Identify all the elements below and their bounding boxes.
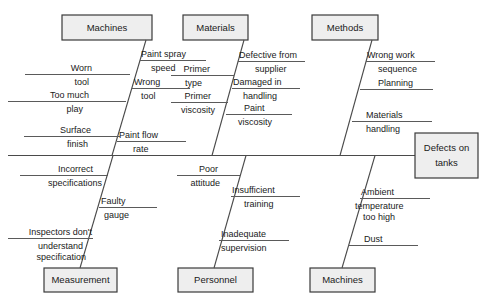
cause-materials-top-l1: Primer viscosity: [171, 91, 228, 115]
category-label-machines-bottom: Machines: [322, 274, 363, 285]
cause-text-line2: understand: [38, 241, 83, 251]
cause-materials-top-r2: Paint viscosity: [226, 103, 292, 127]
cause-text-line1: Inadequate: [221, 229, 266, 239]
cause-text-line1: Primer: [184, 64, 211, 74]
effect-box[interactable]: Defects on tanks: [415, 133, 478, 178]
category-branch-machines-top: Machines Paint spray speed Wrong tool Pa…: [8, 15, 206, 156]
cause-text-line2: viscosity: [181, 105, 216, 115]
cause-measurement-bottom-l1: Inspectors don't understand specificatio…: [8, 227, 93, 262]
category-label-machines-top: Machines: [87, 22, 128, 33]
cause-text-line1: Insufficient: [232, 185, 275, 195]
cause-text-line1: Ambient: [361, 187, 395, 197]
category-label-measurement-bottom: Measurement: [51, 274, 109, 285]
cause-text-line2: handling: [243, 91, 277, 101]
cause-text-line2: sequence: [378, 64, 417, 74]
cause-text-line1: Damaged in: [233, 77, 282, 87]
cause-text-line2: gauge: [104, 210, 129, 220]
cause-text-line2: specifications: [48, 178, 103, 188]
cause-text-line3: specification: [36, 252, 86, 262]
cause-text-line1: Worn: [71, 63, 92, 73]
cause-text-line1: Surface: [60, 125, 91, 135]
cause-text-line2: tool: [141, 91, 156, 101]
effect-box-label-line2: tanks: [435, 157, 458, 168]
cause-text-line1: Paint flow: [119, 130, 159, 140]
cause-materials-top-r1: Damaged in handling: [232, 77, 300, 101]
cause-personnel-bottom-r1: Inadequate supervision: [219, 229, 289, 253]
cause-machines-top-l0: Worn tool: [25, 63, 130, 87]
cause-text-line1: Materials: [366, 110, 403, 120]
fishbone-canvas: Defects on tanks Machines Paint spray sp…: [0, 0, 489, 307]
cause-methods-top-r1: Planning: [360, 78, 433, 90]
cause-text-line3: too high: [363, 212, 395, 222]
cause-text-line1: Paint: [244, 103, 265, 113]
category-branch-materials-top: Materials Defective from supplier Damage…: [171, 15, 305, 156]
cause-text-line1: Defective from: [239, 50, 297, 60]
cause-text-line1: Primer: [185, 91, 212, 101]
category-branch-measurement-bottom: Measurement Faulty gauge Incorrect speci…: [8, 156, 157, 293]
cause-text-line2: rate: [133, 144, 149, 154]
cause-machines-top-r1: Wrong tool: [132, 77, 190, 101]
cause-machines-top-l1: Too much play: [8, 90, 126, 114]
cause-text-line2: tool: [74, 77, 89, 87]
cause-machines-bottom-r0: Ambient temperature too high: [355, 187, 430, 222]
cause-text-line1: Poor: [199, 164, 218, 174]
cause-text-line1: Incorrect: [58, 164, 94, 174]
cause-text-line1: Dust: [364, 234, 383, 244]
fishbone-diagram: Defects on tanks Machines Paint spray sp…: [0, 0, 489, 307]
cause-text-line2: finish: [67, 139, 88, 149]
cause-text-line2: supplier: [255, 64, 287, 74]
cause-text-line2: supervision: [221, 243, 267, 253]
cause-methods-top-r0: Wrong work sequence: [366, 50, 435, 74]
cause-machines-top-l2: Surface finish: [24, 125, 120, 149]
cause-materials-top-r0: Defective from supplier: [238, 50, 305, 74]
category-branch-machines-bottom: Machines Ambient temperature too high Du…: [310, 156, 430, 293]
cause-measurement-bottom-l0: Incorrect specifications: [20, 164, 108, 188]
cause-text-line2: play: [66, 104, 83, 114]
cause-materials-top-l0: Primer type: [171, 64, 234, 88]
category-label-materials-top: Materials: [196, 22, 235, 33]
cause-text-line1: Paint spray: [141, 49, 187, 59]
cause-text-line1: Faulty: [101, 196, 126, 206]
cause-text-line1: Wrong: [134, 77, 160, 87]
effect-box-label-line1: Defects on: [424, 142, 469, 153]
cause-machines-top-r2: Paint flow rate: [117, 130, 186, 154]
cause-methods-top-r2: Materials handling: [352, 110, 432, 134]
cause-text-line2: handling: [366, 124, 400, 134]
effect-box-rect: [415, 133, 478, 178]
cause-measurement-bottom-r0: Faulty gauge: [99, 196, 157, 220]
category-branch-personnel-bottom: Personnel Insufficient training Inadequa…: [177, 156, 300, 293]
cause-text-line2: attitude: [190, 178, 220, 188]
cause-text-line2: speed: [151, 63, 176, 73]
category-label-methods-top: Methods: [327, 22, 364, 33]
category-label-personnel-bottom: Personnel: [194, 274, 237, 285]
cause-text-line2: training: [244, 199, 274, 209]
cause-text-line1: Wrong work: [367, 50, 415, 60]
cause-text-line2: temperature: [355, 201, 404, 211]
cause-text-line1: Inspectors don't: [29, 227, 93, 237]
cause-personnel-bottom-r0: Insufficient training: [231, 185, 300, 209]
cause-text-line2: viscosity: [238, 117, 273, 127]
cause-text-line1: Too much: [50, 90, 89, 100]
cause-machines-bottom-r1: Dust: [348, 234, 418, 246]
cause-text-line2: type: [185, 78, 202, 88]
cause-text-line1: Planning: [378, 78, 413, 88]
